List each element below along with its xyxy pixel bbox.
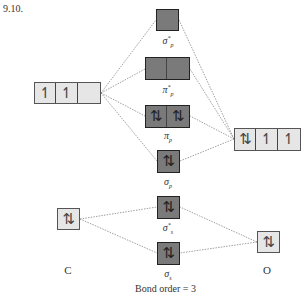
connector-o2p-pi-p: [190, 116, 234, 139]
c-2s-orbital-box: ⇅: [57, 208, 80, 230]
problem-number: 9.10.: [3, 3, 23, 14]
orbital-cell: ↿: [278, 129, 300, 150]
paired-spin-arrows-icon: ⇅: [162, 154, 175, 169]
spin-up-arrow-icon: ↿: [260, 132, 273, 147]
paired-spin-arrows-icon: ⇅: [172, 109, 185, 124]
paired-spin-arrows-icon: ⇅: [239, 132, 252, 147]
orbital-cell-empty: [157, 10, 178, 30]
orbital-cell: ⇅: [258, 232, 279, 252]
mo-pi-star-p-box: [145, 57, 190, 80]
spin-up-arrow-icon: ↿: [39, 86, 52, 101]
mo-pi-star-p-label: π*p: [162, 84, 173, 97]
orbital-cell-empty: [167, 58, 189, 79]
orbital-cell-empty: [78, 83, 100, 103]
o-2s-orbital-box: ⇅: [257, 231, 280, 253]
connector-c2p-pi-star-p: [101, 69, 145, 93]
mo-sigma-p-box: ⇅: [157, 150, 180, 173]
mo-pi-p-label: πp: [164, 130, 172, 143]
connector-o2p-sigma-p: [180, 139, 234, 161]
connector-o2s-sigma-star-s: [180, 207, 257, 242]
orbital-cell: ⇅: [167, 106, 189, 127]
orbital-cell: ↿: [56, 83, 77, 103]
connector-c2s-sigma-s: [80, 219, 157, 253]
paired-spin-arrows-icon: ⇅: [150, 109, 163, 124]
orbital-cell: ⇅: [58, 209, 79, 229]
orbital-cell: ⇅: [158, 197, 179, 218]
orbital-cell: ⇅: [158, 243, 179, 264]
spin-up-arrow-icon: ↿: [60, 86, 73, 101]
orbital-cell: ⇅: [146, 106, 167, 127]
atom-label-carbon: C: [64, 264, 71, 276]
mo-pi-p-box: ⇅ ⇅: [145, 105, 190, 128]
connector-o2p-pi-star-p: [190, 69, 234, 139]
mo-sigma-star-p-label: σ*p: [163, 35, 174, 48]
atom-label-oxygen: O: [263, 264, 271, 276]
paired-spin-arrows-icon: ⇅: [62, 212, 75, 227]
c-2p-orbital-box: ↿ ↿: [34, 82, 101, 104]
orbital-cell: ↿: [256, 129, 277, 150]
paired-spin-arrows-icon: ⇅: [162, 200, 175, 215]
connector-c2s-sigma-star-s: [80, 207, 157, 219]
connector-o2s-sigma-s: [180, 242, 257, 253]
mo-sigma-s-box: ⇅: [157, 242, 180, 265]
connector-c2p-pi-p: [101, 93, 145, 116]
paired-spin-arrows-icon: ⇅: [262, 235, 275, 250]
mo-sigma-s-label: σs: [164, 268, 171, 281]
bond-order-caption: Bond order = 3: [135, 283, 196, 294]
mo-sigma-star-s-label: σ*s: [163, 222, 173, 235]
mo-sigma-star-s-box: ⇅: [157, 196, 180, 219]
paired-spin-arrows-icon: ⇅: [162, 246, 175, 261]
mo-sigma-star-p-box: [156, 9, 179, 31]
mo-sigma-p-label: σp: [164, 176, 172, 189]
orbital-cell: ⇅: [158, 151, 179, 172]
orbital-cell-empty: [146, 58, 167, 79]
orbital-cell: ⇅: [235, 129, 256, 150]
orbital-cell: ↿: [35, 83, 56, 103]
spin-up-arrow-icon: ↿: [283, 132, 296, 147]
o-2p-orbital-box: ⇅ ↿ ↿: [234, 128, 301, 151]
